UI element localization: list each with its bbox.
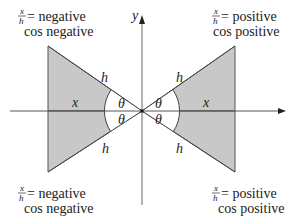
- cosine-sign-diagram: y x x h h h h θ θ θ θ x h = negative cos…: [0, 0, 286, 218]
- svg-text:= positive: = positive: [221, 9, 277, 24]
- svg-text:cos negative: cos negative: [24, 24, 94, 39]
- x-label-left: x: [71, 95, 79, 110]
- svg-text:x: x: [213, 183, 218, 193]
- quadrant-label-bottom-left: x h = negative cos negative: [18, 183, 94, 216]
- svg-text:x: x: [213, 6, 218, 16]
- y-axis-label: y: [130, 8, 139, 23]
- x-axis-arrow-icon: [278, 108, 286, 114]
- theta-label-top-right: θ: [155, 96, 162, 111]
- svg-text:= negative: = negative: [27, 186, 86, 201]
- svg-text:= negative: = negative: [27, 9, 86, 24]
- quadrant-label-bottom-right: x h = positive cos positive: [212, 183, 285, 216]
- x-label-right: x: [202, 95, 210, 110]
- theta-label-top-left: θ: [118, 96, 125, 111]
- h-label-bottom-right: h: [176, 141, 183, 156]
- quadrant-label-top-right: x h = positive cos positive: [212, 6, 280, 39]
- h-label-top-left: h: [101, 70, 108, 85]
- svg-text:= positive: = positive: [221, 186, 277, 201]
- h-label-top-right: h: [176, 70, 183, 85]
- origin-dot: [141, 110, 144, 113]
- theta-label-bottom-right: θ: [155, 112, 162, 127]
- svg-text:cos positive: cos positive: [213, 24, 280, 39]
- svg-text:x: x: [19, 183, 24, 193]
- svg-text:cos negative: cos negative: [24, 201, 94, 216]
- theta-label-bottom-left: θ: [118, 112, 125, 127]
- y-axis-arrow-icon: [139, 15, 145, 24]
- quadrant-label-top-left: x h = negative cos negative: [18, 6, 94, 39]
- h-label-bottom-left: h: [102, 141, 109, 156]
- svg-text:x: x: [19, 6, 24, 16]
- svg-text:cos positive: cos positive: [218, 201, 285, 216]
